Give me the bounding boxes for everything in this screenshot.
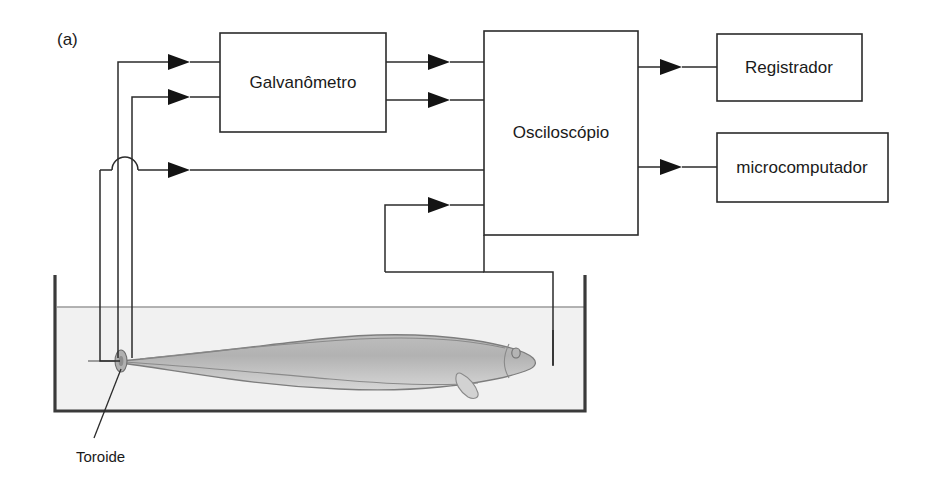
arrow-into-registrador — [660, 59, 682, 75]
arrow-galvanometer-to-oscilloscope-bottom — [428, 92, 450, 108]
arrow-galvanometer-to-oscilloscope-top — [428, 54, 450, 70]
microcomputador-label: microcomputador — [736, 158, 868, 177]
osciloscopio-block[interactable]: Osciloscópio — [484, 31, 638, 235]
block-boxes: Galvanômetro Osciloscópio Registrador mi… — [220, 31, 888, 235]
galvanometro-block[interactable]: Galvanômetro — [220, 33, 386, 132]
arrow-feedback-into-oscilloscope — [428, 197, 450, 213]
tank-electrode-return-wire — [385, 205, 428, 272]
fish-eye — [512, 348, 520, 358]
arrow-into-galvanometer-bottom — [168, 89, 190, 105]
microcomputador-block[interactable]: microcomputador — [717, 133, 888, 202]
block-diagram-canvas: (a) — [0, 0, 935, 487]
arrow-into-microcomputador — [660, 159, 682, 175]
panel-letter: (a) — [57, 30, 78, 49]
galvanometer-output-wires — [386, 62, 484, 100]
registrador-label: Registrador — [745, 58, 833, 77]
toroide-label: Toroide — [76, 448, 125, 465]
arrow-toroid-to-oscilloscope — [168, 162, 190, 178]
galvanometro-label: Galvanômetro — [250, 73, 357, 92]
galvanometer-input-wires — [190, 62, 220, 97]
registrador-block[interactable]: Registrador — [717, 34, 862, 101]
wire-hop-arc — [112, 157, 138, 170]
osciloscopio-label: Osciloscópio — [513, 123, 609, 142]
arrow-into-galvanometer-top — [168, 54, 190, 70]
oscilloscope-output-wires — [638, 67, 717, 167]
figure-root: (a) — [0, 0, 935, 487]
